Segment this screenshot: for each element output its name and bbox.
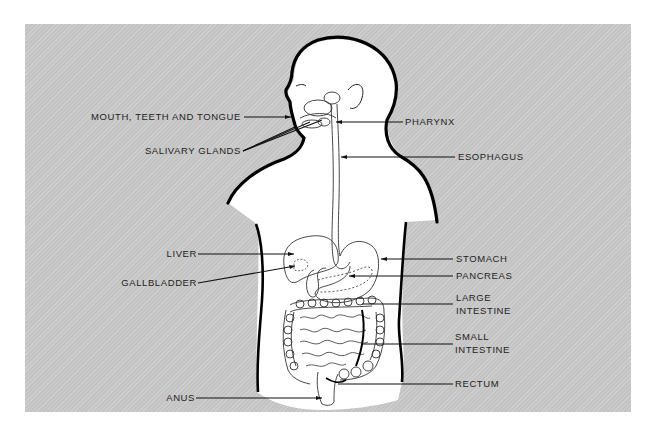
- label-small-intestine-line1: SMALL: [455, 331, 489, 343]
- label-pancreas: PANCREAS: [456, 270, 512, 282]
- label-rectum: RECTUM: [455, 378, 499, 390]
- label-stomach: STOMACH: [456, 253, 508, 265]
- label-large-intestine-line2: INTESTINE: [456, 305, 511, 317]
- label-salivary-glands: SALIVARY GLANDS: [100, 145, 241, 157]
- label-mouth-teeth-tongue: MOUTH, TEETH AND TONGUE: [60, 111, 241, 123]
- label-esophagus: ESOPHAGUS: [458, 151, 524, 163]
- digestive-system-illustration: [0, 0, 657, 434]
- label-pharynx: PHARYNX: [405, 116, 455, 128]
- label-liver: LIVER: [120, 248, 197, 260]
- label-gallbladder: GALLBLADDER: [90, 277, 197, 289]
- label-small-intestine-line2: INTESTINE: [455, 344, 510, 356]
- label-large-intestine-line1: LARGE: [456, 292, 491, 304]
- label-anus: ANUS: [120, 392, 195, 404]
